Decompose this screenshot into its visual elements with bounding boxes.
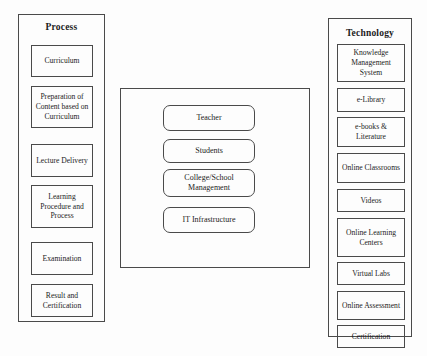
actor-box-it-infrastructure: IT Infrastructure	[163, 207, 255, 233]
technology-box-virtual-labs: Virtual Labs	[337, 262, 405, 285]
process-box-lecture-delivery: Lecture Delivery	[31, 144, 93, 177]
panel-process: Process Curriculum Preparation of Conten…	[18, 14, 105, 322]
technology-box-online-classrooms: Online Classrooms	[337, 153, 405, 183]
technology-box-knowledge-management-system: Knowledge Management System	[337, 44, 405, 82]
panel-process-title: Process	[19, 22, 104, 32]
panel-technology-title: Technology	[329, 28, 411, 38]
technology-box-online-learning-centers: Online Learning Centers	[337, 218, 405, 257]
process-box-examination: Examination	[31, 242, 93, 275]
technology-box-certification: Certification	[337, 325, 405, 348]
process-box-curriculum: Curriculum	[31, 45, 93, 77]
process-box-result-and-certification: Result and Certification	[31, 284, 93, 317]
panel-technology: Technology Knowledge Management System e…	[328, 18, 412, 337]
technology-box-videos: Videos	[337, 189, 405, 212]
actor-box-teacher: Teacher	[163, 105, 255, 131]
process-box-preparation-of-content: Preparation of Content based on Curricul…	[31, 86, 93, 128]
technology-box-e-books-and-literature: e-books & Literature	[337, 117, 405, 147]
actor-box-college-school-management: College/School Management	[163, 169, 255, 197]
technology-box-online-assessment: Online Assessment	[337, 291, 405, 320]
actor-box-students: Students	[163, 139, 255, 163]
panel-actors: Teacher Students College/School Manageme…	[120, 88, 310, 268]
diagram-canvas: Process Curriculum Preparation of Conten…	[0, 0, 427, 356]
technology-box-e-library: e-Library	[337, 88, 405, 112]
process-box-learning-procedure: Learning Procedure and Process	[31, 185, 93, 228]
